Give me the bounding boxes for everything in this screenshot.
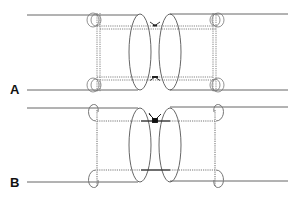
panel-label-a: A	[10, 83, 19, 96]
tied-sutures-b	[141, 121, 170, 170]
right-tube-b	[159, 107, 288, 182]
panel-a	[27, 13, 288, 92]
knot-marks-a	[150, 22, 160, 81]
suture-diagram: A B	[0, 0, 302, 199]
panel-b	[27, 104, 288, 187]
right-tube-a	[159, 14, 288, 90]
left-tube-b	[27, 108, 151, 182]
right-suture-loops-a	[210, 13, 224, 92]
panel-label-b: B	[10, 176, 19, 189]
left-suture-loops-a	[87, 13, 101, 92]
diagram-canvas	[0, 0, 302, 199]
